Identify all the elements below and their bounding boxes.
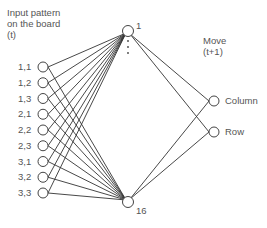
ellipsis-dot [127,52,129,54]
hidden-node-bottom-label: 16 [136,205,147,216]
connection-line [130,101,209,199]
hidden-node-top [123,26,134,37]
output-node-label: Row [225,126,244,137]
connection-line [48,33,126,177]
input-node-label: 2,3 [18,140,31,151]
input-node [38,188,48,198]
output-node-label: Column [225,95,258,106]
input-node-label: 2,2 [18,124,31,135]
input-node-label: 3,1 [18,156,31,167]
input-node-label: 1,3 [18,93,31,104]
input-node-label: 3,2 [18,171,31,182]
connection-line [130,34,209,101]
input-node [38,157,48,167]
input-node-label: 1,2 [18,77,31,88]
connection-line [48,33,126,130]
ellipsis-dot [127,46,129,48]
input-node-label: 1,1 [18,61,31,72]
connection-line [48,146,126,200]
input-node [38,62,48,72]
connection-line [48,33,126,162]
output-node [209,127,219,137]
connection-line [48,67,126,200]
output-node [209,96,219,106]
connection-line [130,34,209,132]
input-node-label: 3,3 [18,187,31,198]
input-node [38,94,48,104]
ellipsis-dot [127,40,129,42]
connection-line [48,130,126,200]
input-node [38,109,48,119]
hidden-node-top-label: 1 [136,20,141,31]
input-node [38,125,48,135]
connection-line [48,33,126,114]
hidden-node-bottom [123,197,134,208]
input-node-label: 2,1 [18,108,31,119]
network-diagram [0,0,267,228]
connection-line [130,132,209,199]
input-node [38,141,48,151]
input-node [38,172,48,182]
input-node [38,78,48,88]
connection-line [48,114,126,200]
